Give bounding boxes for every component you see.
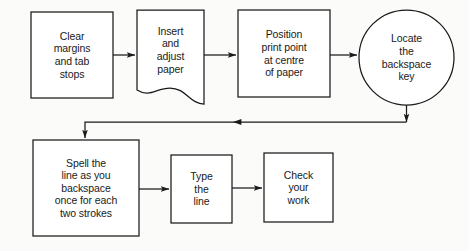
node-insert-paper — [137, 10, 204, 104]
node-check-work — [264, 153, 333, 222]
edge-midpoint-arrowhead — [233, 119, 241, 125]
node-spell-line — [33, 140, 139, 236]
node-clear-margins — [31, 12, 113, 98]
node-type-line — [171, 155, 232, 223]
flowchart-canvas — [0, 0, 469, 251]
node-position-print — [238, 10, 330, 97]
edge-locate-to-spell-return — [85, 122, 407, 138]
flowchart-diagram: Clear margins and tab stops Insert and a… — [0, 0, 469, 251]
node-locate-key — [359, 10, 454, 105]
